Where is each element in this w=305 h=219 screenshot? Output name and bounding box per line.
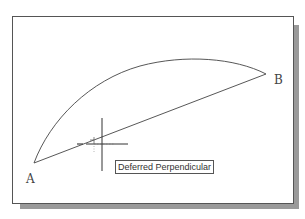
point-b-label: B [274, 74, 283, 86]
drawing-stage: A B Deferred Perpendicular [0, 0, 305, 219]
osnap-tooltip: Deferred Perpendicular [115, 160, 214, 174]
arc-entity[interactable] [34, 59, 266, 163]
line-entity[interactable] [34, 74, 266, 163]
point-a-label: A [26, 173, 35, 185]
drawing-canvas[interactable] [0, 0, 305, 219]
